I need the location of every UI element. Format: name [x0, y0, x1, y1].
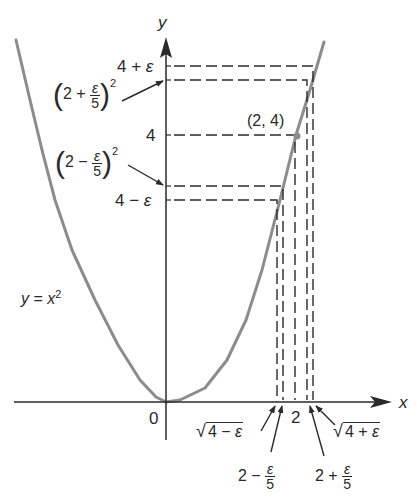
guide-4-minus-eps: [174, 200, 277, 400]
origin-label: 0: [149, 410, 158, 427]
arrow-sqrt-4-minus-eps: [261, 406, 275, 431]
curve-label-y: y: [21, 290, 29, 307]
frac-den: 5: [90, 96, 100, 110]
radicand-text: 4 −: [208, 423, 235, 440]
guide-4-plus-eps: [174, 66, 313, 400]
y-axis-label: y: [158, 14, 167, 31]
x-label-2-plus-eps5: 2 + ε5: [315, 462, 352, 491]
two-plus: 2 +: [63, 85, 90, 102]
fraction-eps-over-5: ε5: [342, 462, 352, 491]
guide-2-plus-eps5-sq: [174, 80, 307, 400]
two-minus: 2 −: [65, 153, 92, 170]
frac-den: 5: [92, 164, 102, 178]
y-label-2-minus-eps5-sq: (2 − ε5)2: [55, 148, 118, 178]
open-paren: (: [53, 78, 63, 111]
frac-den: 5: [265, 477, 275, 491]
fraction-eps-over-5: ε5: [265, 462, 275, 491]
fraction-eps-over-5: ε5: [92, 149, 102, 178]
x-label-2: 2: [291, 409, 300, 426]
x-axis-label: x: [399, 394, 408, 411]
sqrt-expression: √4 + ε: [333, 422, 380, 440]
arrow-2-plus-eps5-sq: [122, 81, 163, 101]
frac-den: 5: [342, 477, 352, 491]
y-label-4: 4: [146, 127, 155, 144]
exponent: 2: [112, 145, 118, 157]
curve-label-eq: =: [29, 290, 47, 307]
y-label-2-plus-eps5-sq: (2 + ε5)2: [53, 80, 116, 110]
parabola-right-branch: [166, 42, 324, 402]
sqrt-expression: √4 − ε: [196, 422, 243, 440]
arrow-2-plus-eps5: [310, 406, 324, 456]
curve-label: y = x2: [21, 291, 61, 307]
exponent: 2: [110, 77, 116, 89]
x-label-sqrt-4-plus-eps: √4 + ε: [333, 422, 380, 440]
dashed-guides: [174, 66, 313, 400]
y-label-4-plus-eps-text: 4 +: [117, 57, 146, 76]
sqrt-icon: √: [333, 421, 343, 441]
y-label-4-plus-eps: 4 + ε: [117, 58, 153, 75]
point-label: (2, 4): [247, 113, 284, 129]
frac-num: ε: [90, 81, 100, 96]
eps-symbol: ε: [235, 423, 242, 440]
x-label-2-minus-eps5: 2 − ε5: [238, 462, 275, 491]
frac-num: ε: [342, 462, 352, 477]
radicand: 4 + ε: [343, 422, 380, 440]
open-paren: (: [55, 146, 65, 179]
sqrt-icon: √: [196, 421, 206, 441]
fraction-eps-over-5: ε5: [90, 81, 100, 110]
radicand-text: 4 +: [345, 423, 372, 440]
curve-label-exp: 2: [55, 288, 61, 300]
close-paren: ): [100, 78, 110, 111]
y-label-4-minus-eps: 4 − ε: [115, 192, 151, 209]
guide-2-minus-eps5-sq: [174, 186, 283, 400]
frac-num: ε: [265, 462, 275, 477]
arrow-2-minus-eps5: [271, 406, 282, 452]
point-2-4: [294, 133, 301, 140]
eps-symbol: ε: [146, 57, 153, 76]
x-label-sqrt-4-minus-eps: √4 − ε: [196, 422, 243, 440]
close-paren: ): [102, 146, 112, 179]
eps-symbol: ε: [144, 191, 151, 210]
arrow-2-minus-eps5-sq: [128, 165, 163, 185]
two-plus: 2 +: [315, 467, 342, 484]
two-minus: 2 −: [238, 467, 265, 484]
radicand: 4 − ε: [206, 422, 243, 440]
frac-num: ε: [92, 149, 102, 164]
eps-symbol: ε: [372, 423, 379, 440]
y-label-4-minus-eps-text: 4 −: [115, 191, 144, 210]
